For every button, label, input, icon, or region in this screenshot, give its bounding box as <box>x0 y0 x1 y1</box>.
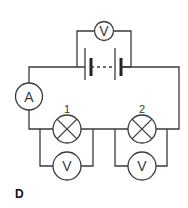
main-circuit-wires <box>29 67 179 129</box>
ammeter-symbol: A <box>24 89 34 105</box>
ammeter: A <box>16 83 43 110</box>
lamp-1-label: 1 <box>64 103 70 115</box>
figure-label: D <box>15 187 24 201</box>
voltmeter-symbol: V <box>99 23 109 39</box>
battery <box>85 48 131 80</box>
lamp-2-label: 2 <box>139 103 145 115</box>
lamp-1-voltmeter-symbol: V <box>62 158 72 174</box>
circuit-diagram: V A 1 V 2 V D <box>0 0 188 208</box>
lamp-2-icon <box>128 115 156 143</box>
lamp-1-icon <box>53 115 81 143</box>
lamp-2-voltmeter-symbol: V <box>137 158 147 174</box>
lamp-2-group: 2 V <box>115 103 167 180</box>
lamp-1-group: 1 V <box>40 103 93 180</box>
